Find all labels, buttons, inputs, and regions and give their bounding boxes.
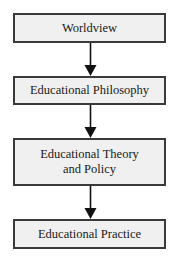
- worldview-label: Worldview: [62, 21, 117, 36]
- educational-practice-box: Educational Practice: [13, 219, 166, 249]
- educational-philosophy-label: Educational Philosophy: [30, 83, 149, 98]
- arrow-down-icon: [84, 43, 97, 76]
- educational-theory-policy-box: Educational Theory and Policy: [13, 138, 166, 186]
- worldview-box: Worldview: [13, 13, 166, 43]
- arrow-down-icon: [84, 105, 97, 138]
- educational-theory-policy-label: Educational Theory and Policy: [40, 147, 139, 177]
- educational-practice-label: Educational Practice: [38, 227, 141, 242]
- educational-philosophy-box: Educational Philosophy: [13, 76, 166, 105]
- arrow-down-icon: [84, 186, 97, 219]
